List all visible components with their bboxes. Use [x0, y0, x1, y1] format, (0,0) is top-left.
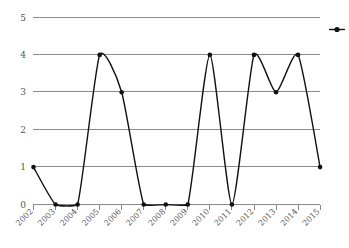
x-axis-tick-labels: 2002 2003 2004 2005 2006 2007 2008 2009 …: [14, 207, 321, 228]
x-tick-label-2004: 2004: [58, 207, 79, 228]
x-tick-label-2009: 2009: [168, 207, 189, 228]
y-tick-label-1: 1: [20, 162, 26, 172]
y-tick-label-2: 2: [20, 125, 26, 135]
x-tick-label-2013: 2013: [257, 207, 278, 228]
x-tick-label-2008: 2008: [146, 207, 167, 228]
data-point-marker: [163, 202, 168, 207]
legend: [329, 27, 345, 32]
x-tick-label-2005: 2005: [80, 207, 101, 228]
data-point-marker: [119, 90, 124, 95]
x-tick-label-2002: 2002: [14, 207, 35, 228]
x-tick-label-2015: 2015: [301, 207, 322, 228]
line-chart-plot: 5 4 3 2 1 0 2002 2003 2004: [0, 0, 349, 248]
x-tick-label-2011: 2011: [213, 207, 234, 228]
data-point-marker: [31, 165, 36, 170]
y-tick-label-5: 5: [20, 13, 26, 23]
data-point-marker: [296, 53, 301, 58]
x-tick-label-2006: 2006: [102, 207, 123, 228]
data-point-marker: [186, 202, 191, 207]
x-tick-label-2007: 2007: [124, 207, 145, 228]
data-point-marker: [230, 202, 235, 207]
data-point-marker: [97, 53, 102, 58]
y-axis-tick-labels: 5 4 3 2 1 0: [20, 13, 26, 210]
data-point-marker: [75, 202, 80, 207]
y-tick-label-4: 4: [20, 50, 26, 60]
data-point-marker: [141, 202, 146, 207]
data-point-marker: [318, 165, 323, 170]
x-tick-label-2014: 2014: [279, 207, 300, 228]
chart-container: 5 4 3 2 1 0 2002 2003 2004: [0, 0, 349, 248]
data-point-marker: [53, 202, 58, 207]
y-tick-label-3: 3: [20, 87, 26, 97]
x-tick-label-2003: 2003: [36, 207, 57, 228]
data-point-marker: [274, 90, 279, 95]
x-tick-label-2012: 2012: [235, 207, 256, 228]
data-point-marker: [208, 53, 213, 58]
y-tick-label-0: 0: [20, 200, 26, 210]
data-point-marker: [252, 53, 257, 58]
x-tick-label-2010: 2010: [191, 207, 212, 228]
legend-marker-dot: [334, 27, 339, 32]
